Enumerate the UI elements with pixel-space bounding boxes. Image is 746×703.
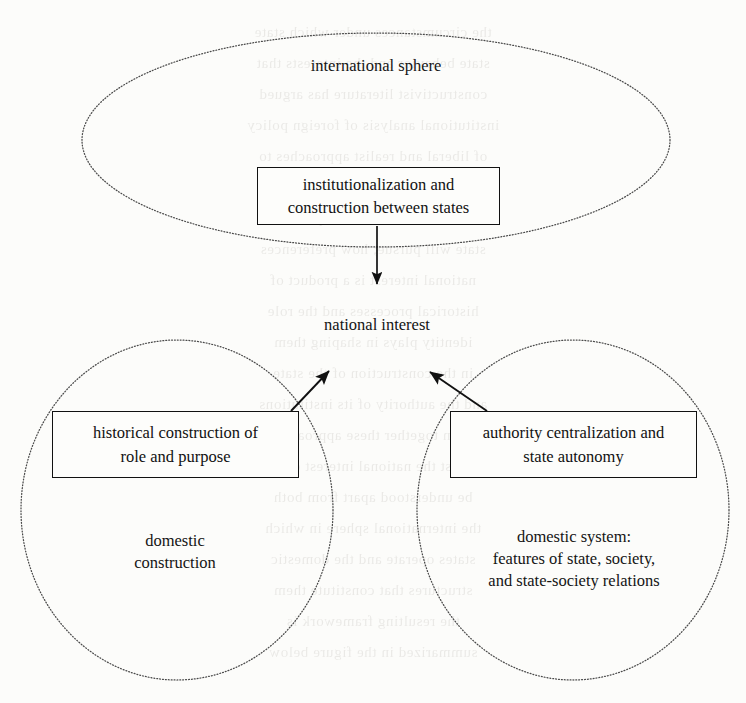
national-interest-label: national interest [277, 314, 477, 336]
historical-construction-box: historical construction of role and purp… [52, 411, 299, 478]
institutionalization-box: institutionalization and construction be… [257, 167, 500, 225]
international-sphere-label: international sphere [236, 55, 516, 77]
domestic-system-label: domestic system: features of state, soci… [453, 526, 695, 591]
authority-centralization-box: authority centralization and state auton… [450, 411, 697, 478]
domestic-construction-label: domestic construction [85, 530, 265, 574]
diagram-text-layer: international sphere national interest d… [0, 0, 746, 703]
diagram-page: the circumstances under which statestate… [0, 0, 746, 703]
